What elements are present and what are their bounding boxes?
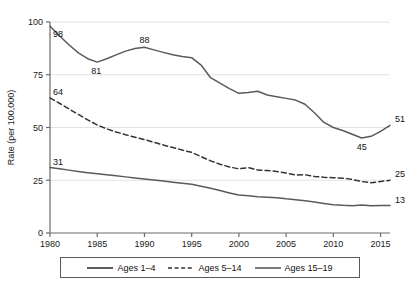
line-chart-plot: 0255075100 19801985199019952000200520102… — [0, 0, 420, 250]
legend-item-ages-1-4[interactable]: Ages 1–4 — [87, 263, 155, 273]
series-line-ages-5-14 — [50, 98, 390, 183]
point-label-64-1980: 64 — [53, 87, 63, 97]
y-tick-label-75: 75 — [33, 70, 43, 80]
data-point-labels: 988188455164253113 — [53, 29, 405, 204]
x-tick-label-2010: 2010 — [323, 239, 343, 249]
point-label-98-1980: 98 — [53, 29, 63, 39]
series-line-ages-15-19 — [50, 26, 390, 138]
x-axis: 19801985199019952000200520102015 — [40, 233, 391, 249]
legend-label-1: Ages 1–4 — [117, 263, 155, 273]
y-axis: 0255075100 — [28, 17, 50, 238]
chart-container: 0255075100 19801985199019952000200520102… — [0, 0, 420, 295]
point-label-13-2016: 13 — [395, 195, 405, 205]
legend-line-swatch-1 — [87, 264, 113, 272]
gridlines — [50, 22, 390, 180]
legend-label-2: Ages 5–14 — [198, 263, 241, 273]
legend-line-swatch-3 — [255, 264, 281, 272]
x-tick-label-1985: 1985 — [87, 239, 107, 249]
legend-line-swatch-2 — [168, 264, 194, 272]
point-label-81-1985: 81 — [91, 66, 101, 76]
y-tick-label-100: 100 — [28, 17, 43, 27]
legend-item-ages-15-19[interactable]: Ages 15–19 — [255, 263, 333, 273]
point-label-45-2013: 45 — [357, 142, 367, 152]
x-tick-label-2015: 2015 — [371, 239, 391, 249]
legend-label-3: Ages 15–19 — [285, 263, 333, 273]
point-label-31-1980: 31 — [53, 157, 63, 167]
x-tick-label-1990: 1990 — [134, 239, 154, 249]
point-label-51-2016: 51 — [395, 114, 405, 124]
y-tick-label-50: 50 — [33, 123, 43, 133]
x-tick-label-2000: 2000 — [229, 239, 249, 249]
x-tick-label-1980: 1980 — [40, 239, 60, 249]
point-label-88-1990: 88 — [139, 35, 149, 45]
y-tick-label-25: 25 — [33, 176, 43, 186]
x-tick-label-1995: 1995 — [182, 239, 202, 249]
y-axis-title: Rate (per 100,000) — [6, 90, 16, 166]
y-axis-title-text: Rate (per 100,000) — [6, 90, 16, 166]
chart-legend: Ages 1–4Ages 5–14Ages 15–19 — [60, 257, 360, 278]
y-tick-label-0: 0 — [38, 228, 43, 238]
x-tick-label-2005: 2005 — [276, 239, 296, 249]
data-series — [50, 26, 390, 206]
series-line-ages-1-4 — [50, 168, 390, 206]
legend-item-ages-5-14[interactable]: Ages 5–14 — [168, 263, 241, 273]
point-label-25-2016: 25 — [395, 169, 405, 179]
